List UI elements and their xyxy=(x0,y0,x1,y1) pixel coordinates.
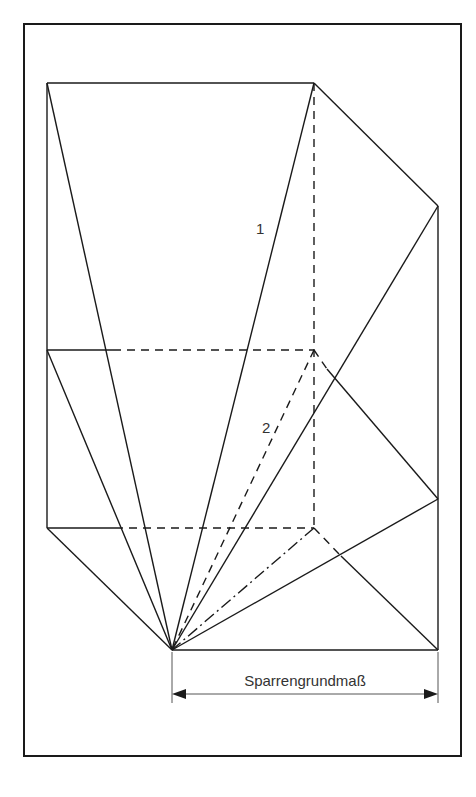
dash-dot-line xyxy=(172,528,314,650)
label-line-1: 1 xyxy=(256,220,264,237)
frame-border xyxy=(24,24,461,756)
arrow-right-icon xyxy=(424,689,438,699)
label-line-2: 2 xyxy=(262,419,270,436)
arrow-left-icon xyxy=(172,689,186,699)
rafter-diagram: 1 2 Sparrengrundmaß xyxy=(0,0,476,797)
dimension-label: Sparrengrundmaß xyxy=(244,672,366,689)
rafter-line-1 xyxy=(172,83,314,650)
solid-lines xyxy=(47,83,438,650)
dashed-lines xyxy=(113,83,341,650)
rafter-line-2 xyxy=(172,350,314,650)
